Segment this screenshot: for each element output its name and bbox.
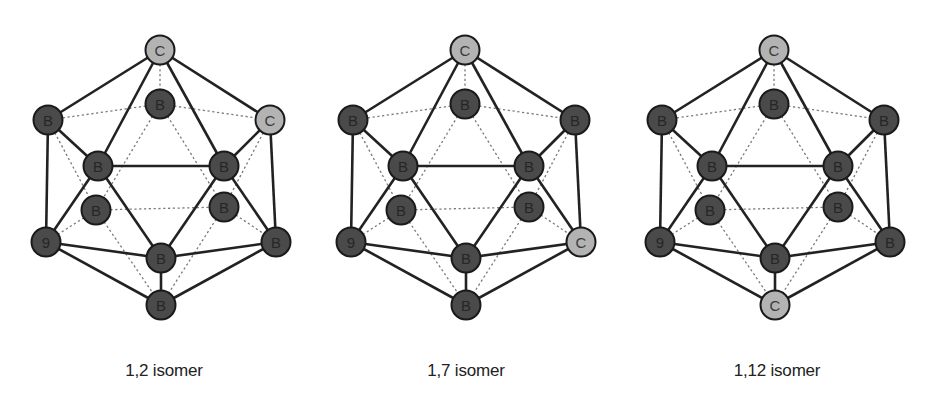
- atom-label: B: [460, 96, 470, 113]
- bond: [351, 120, 353, 242]
- atom-label: B: [271, 234, 281, 251]
- bond: [775, 242, 890, 305]
- atom-label: 9: [656, 234, 664, 251]
- atom-label: B: [91, 202, 101, 219]
- atom-label: C: [770, 297, 781, 314]
- bond: [351, 242, 466, 305]
- atom-label: B: [348, 112, 358, 129]
- molecule-1-7-isomer: CBBBBBBB9CBB: [337, 36, 596, 320]
- hidden-bond: [401, 207, 529, 210]
- hidden-bond: [774, 104, 884, 120]
- molecule-1-2-isomer: CBBCBBBB9BBB: [32, 36, 291, 320]
- atom-label: B: [461, 250, 471, 267]
- atom-label: C: [460, 42, 471, 59]
- molecule-1-12-isomer: CBBBBBBB9BBC: [646, 36, 905, 320]
- bond: [160, 50, 270, 120]
- atom-label: B: [879, 112, 889, 129]
- bond: [660, 242, 775, 305]
- bond: [46, 120, 48, 242]
- bond: [46, 242, 161, 305]
- bond: [161, 242, 276, 305]
- atom-label: B: [156, 250, 166, 267]
- caption-1-7-isomer: 1,7 isomer: [427, 361, 504, 381]
- hidden-bond: [96, 207, 224, 210]
- bond: [465, 50, 575, 120]
- atom-label: B: [705, 202, 715, 219]
- atom-label: B: [93, 158, 103, 175]
- bond: [270, 120, 276, 242]
- hidden-bond: [160, 104, 270, 120]
- atom-label: B: [524, 158, 534, 175]
- atom-label: B: [461, 297, 471, 314]
- atom-label: B: [219, 158, 229, 175]
- atom-label: B: [396, 202, 406, 219]
- bond: [466, 242, 581, 305]
- atom-label: B: [155, 96, 165, 113]
- hidden-bond: [353, 104, 465, 120]
- atom-label: B: [657, 112, 667, 129]
- hidden-bond: [465, 104, 575, 120]
- caption-1-12-isomer: 1,12 isomer: [734, 361, 821, 381]
- atom-label: B: [707, 158, 717, 175]
- bond: [575, 120, 581, 242]
- atom-label: B: [43, 112, 53, 129]
- atom-label: B: [770, 250, 780, 267]
- atom-label: C: [576, 234, 587, 251]
- atom-label: B: [570, 112, 580, 129]
- atom-label: B: [398, 158, 408, 175]
- hidden-bond: [710, 207, 838, 210]
- hidden-bond: [662, 104, 774, 120]
- bond: [660, 120, 662, 242]
- atom-label: B: [833, 199, 843, 216]
- bond: [774, 50, 884, 120]
- atom-label: 9: [347, 234, 355, 251]
- bond: [353, 50, 465, 120]
- atom-label: C: [155, 42, 166, 59]
- atom-label: B: [156, 297, 166, 314]
- bond: [662, 50, 774, 120]
- atom-label: B: [833, 158, 843, 175]
- atom-label: 9: [42, 234, 50, 251]
- caption-1-2-isomer: 1,2 isomer: [125, 361, 202, 381]
- isomer-figure: CBBCBBBB9BBBCBBBBBBB9CBBCBBBBBBB9BBC 1,2…: [0, 0, 929, 396]
- bond: [884, 120, 890, 242]
- atom-label: B: [524, 199, 534, 216]
- icosahedra-diagram: CBBCBBBB9BBBCBBBBBBB9CBBCBBBBBBB9BBC: [0, 0, 929, 396]
- atom-label: B: [219, 199, 229, 216]
- hidden-bond: [48, 104, 160, 120]
- atom-label: B: [769, 96, 779, 113]
- atom-label: C: [769, 42, 780, 59]
- atom-label: C: [265, 112, 276, 129]
- atom-label: B: [885, 234, 895, 251]
- bond: [48, 50, 160, 120]
